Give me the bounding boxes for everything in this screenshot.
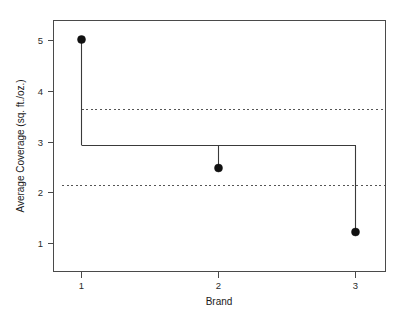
x-tick-label-1: 1 bbox=[79, 280, 84, 291]
x-axis-title: Brand bbox=[206, 296, 233, 307]
x-tick-label-2: 2 bbox=[216, 280, 221, 291]
chart-figure: 5 4 3 2 1 1 2 3 Brand Average Coverage (… bbox=[0, 0, 404, 321]
y-tick-label-3: 3 bbox=[38, 137, 43, 148]
data-point-brand-2 bbox=[215, 164, 223, 172]
data-point-brand-1 bbox=[78, 36, 86, 44]
x-tick-label-3: 3 bbox=[353, 280, 358, 291]
y-tick-label-4: 4 bbox=[38, 86, 43, 97]
y-axis-title: Average Coverage (sq. ft./oz.) bbox=[15, 79, 26, 212]
data-point-brand-3 bbox=[352, 228, 360, 236]
main-effects-plot: 5 4 3 2 1 1 2 3 Brand Average Coverage (… bbox=[0, 0, 404, 321]
y-tick-label-1: 1 bbox=[38, 238, 43, 249]
y-tick-label-5: 5 bbox=[38, 35, 43, 46]
y-tick-label-2: 2 bbox=[38, 187, 43, 198]
